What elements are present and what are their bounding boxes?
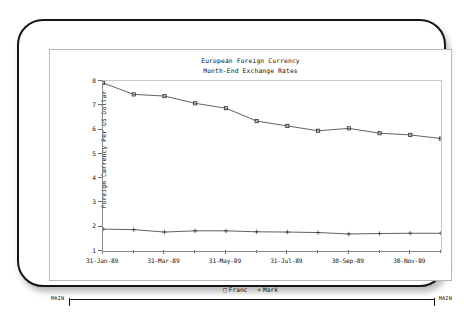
- status-rule-left-cap: [69, 298, 70, 306]
- data-point-marker: [377, 231, 381, 235]
- terminal-bezel: European Foreign Currency Month-End Exch…: [17, 19, 446, 287]
- status-label-left[interactable]: MAIN: [51, 295, 64, 301]
- x-axis-tick-label: 30-Nov-89: [381, 257, 437, 264]
- data-point-marker: [162, 230, 166, 234]
- chart-subtitle: Month-End Exchange Rates: [50, 67, 451, 74]
- y-axis-tick-label: 3: [80, 198, 96, 205]
- data-point-marker: [132, 227, 136, 231]
- data-point-marker: [224, 229, 228, 233]
- data-point-marker: [254, 230, 258, 234]
- legend-marker-icon: +: [257, 286, 261, 293]
- data-point-marker: [193, 229, 197, 233]
- data-point-marker: [439, 231, 441, 235]
- legend-item-mark[interactable]: +Mark: [257, 286, 278, 293]
- terminal-screen: European Foreign Currency Month-End Exch…: [49, 49, 454, 299]
- legend-item-franc[interactable]: □Franc: [223, 286, 247, 293]
- y-axis-tick-label: 8: [80, 77, 96, 84]
- chart-panel: European Foreign Currency Month-End Exch…: [49, 49, 452, 281]
- x-axis-tick-label: 31-May-89: [197, 257, 253, 264]
- y-axis-tick-label: 6: [80, 125, 96, 132]
- series-line: [103, 229, 441, 234]
- legend-marker-icon: □: [223, 286, 227, 293]
- legend-label: Mark: [263, 286, 278, 293]
- chart-legend: □Franc+Mark: [50, 286, 451, 293]
- legend-label: Franc: [229, 286, 248, 293]
- data-point-marker: [103, 227, 105, 231]
- y-axis-tick-label: 5: [80, 150, 96, 157]
- y-axis-tick-label: 7: [80, 101, 96, 108]
- chart-title: European Foreign Currency: [50, 57, 451, 64]
- x-axis-tick-label: 31-Jul-89: [258, 257, 314, 264]
- x-axis-tick-label: 31-Mar-89: [135, 257, 191, 264]
- data-point-marker: [408, 231, 412, 235]
- y-axis-tick-label: 2: [80, 222, 96, 229]
- x-axis-tick-label: 31-Jan-89: [74, 257, 130, 264]
- plot-area: [102, 80, 442, 252]
- status-bar: MAIN MAIN: [49, 295, 454, 304]
- data-point-marker: [285, 230, 289, 234]
- status-label-right[interactable]: MAIN: [439, 295, 452, 301]
- status-rule: [69, 299, 435, 300]
- series-franc: [103, 81, 441, 140]
- y-axis-tick-label: 1: [80, 247, 96, 254]
- data-point-marker: [347, 232, 351, 236]
- status-rule-right-cap: [434, 298, 435, 306]
- x-axis-tick-label: 30-Sep-89: [320, 257, 376, 264]
- data-point-marker: [316, 230, 320, 234]
- chart-series-canvas: [103, 81, 441, 251]
- series-mark: [103, 227, 441, 236]
- series-line: [103, 83, 441, 139]
- y-axis-tick-label: 4: [80, 174, 96, 181]
